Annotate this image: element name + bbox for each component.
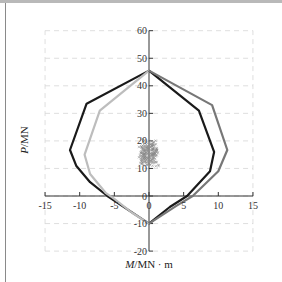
x-tick-label: 15 [248, 200, 258, 211]
y-axis-title: P/MN [18, 126, 30, 155]
y-tick-label: 50 [137, 53, 147, 64]
y-tick-label: 20 [137, 135, 147, 146]
x-tick-label: 0 [147, 200, 152, 211]
y-tick-label: 30 [137, 108, 147, 119]
x-tick-label: 10 [213, 200, 223, 211]
pm-interaction-chart: -20-100102030405060-15-10-5051015 M/MN ·… [0, 0, 282, 282]
x-tick-label: -5 [110, 200, 118, 211]
y-tick-label: -10 [134, 218, 147, 229]
x-axis-title: M/MN · m [124, 258, 173, 270]
y-tick-label: -20 [134, 246, 147, 257]
x-tick-label: 5 [181, 200, 186, 211]
x-tick-label: -10 [73, 200, 86, 211]
x-tick-label: -15 [38, 200, 51, 211]
y-tick-label: 10 [137, 163, 147, 174]
y-tick-label: 40 [137, 80, 147, 91]
y-tick-label: 60 [137, 25, 147, 36]
